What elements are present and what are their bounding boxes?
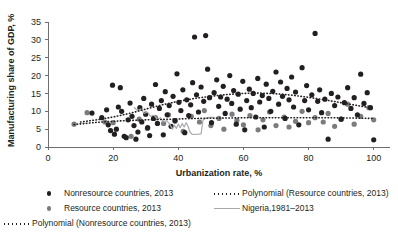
x-tick-group: 020406080100 <box>45 147 381 163</box>
data-point <box>203 33 208 38</box>
data-point <box>234 122 239 127</box>
legend-column-right: Polynomial (Resource countries, 2013) Ni… <box>212 186 398 216</box>
x-tick-label: 80 <box>304 153 314 163</box>
polynomial-resource-line <box>74 118 374 125</box>
y-tick-label: 15 <box>31 89 41 99</box>
x-tick-label: 40 <box>173 153 183 163</box>
data-point <box>335 94 340 99</box>
data-point <box>249 105 254 110</box>
data-point <box>293 89 298 94</box>
data-point <box>284 86 289 91</box>
data-point <box>255 127 260 132</box>
data-point <box>149 102 154 107</box>
data-point <box>329 91 334 96</box>
data-point <box>304 83 309 88</box>
data-point <box>202 108 207 113</box>
legend-marker-dotted-line-icon <box>212 188 242 200</box>
data-point <box>147 133 152 138</box>
data-point <box>110 83 115 88</box>
data-point <box>190 80 195 85</box>
data-point <box>266 96 271 101</box>
data-point <box>312 31 317 36</box>
data-point <box>326 111 331 116</box>
data-point <box>196 109 201 114</box>
legend-item-polynomial-resource: Polynomial (Resource countries, 2013) <box>212 186 398 201</box>
legend-marker-solid-line-icon <box>212 203 242 215</box>
data-point <box>216 104 221 109</box>
x-tick-label: 60 <box>238 153 248 163</box>
data-point <box>165 112 170 117</box>
y-tick-label: 30 <box>31 35 41 45</box>
x-tick-label: 100 <box>366 153 381 163</box>
legend-marker-dot-dark-icon <box>34 188 64 200</box>
data-point <box>194 92 199 97</box>
data-point <box>247 87 252 92</box>
data-point <box>212 90 217 95</box>
data-point <box>296 122 301 127</box>
data-point <box>133 137 138 142</box>
data-point <box>262 124 267 129</box>
data-point <box>286 124 291 129</box>
y-tick-label: 20 <box>31 71 41 81</box>
legend-marker-dot-gray-icon <box>34 203 64 215</box>
data-point <box>231 88 236 93</box>
legend-label: Nonresource countries, 2013 <box>64 189 173 198</box>
data-point <box>255 76 260 81</box>
data-point <box>116 104 121 109</box>
y-tick-label: 5 <box>36 124 41 134</box>
data-point <box>141 96 146 101</box>
y-tick-label: 10 <box>31 106 41 116</box>
data-point <box>153 82 158 87</box>
data-point <box>188 102 193 107</box>
data-point <box>155 121 160 126</box>
legend-label: Polynomial (Nonresource countries, 2013) <box>32 219 191 228</box>
data-point <box>299 109 304 114</box>
data-point <box>119 109 124 114</box>
data-point <box>332 124 337 129</box>
data-point <box>319 110 324 115</box>
data-point <box>306 107 311 112</box>
data-point <box>131 123 136 128</box>
scatter-plot-canvas: 05101520253035 020406080100 Manufacturin… <box>0 0 398 180</box>
data-point <box>326 137 331 142</box>
data-point <box>127 100 132 105</box>
data-point <box>229 112 234 117</box>
data-point <box>161 132 166 137</box>
data-point <box>180 87 185 92</box>
data-point <box>221 127 226 132</box>
data-point <box>227 73 232 78</box>
data-point <box>268 109 273 114</box>
data-point <box>108 128 113 133</box>
data-point <box>223 111 228 116</box>
data-point <box>225 97 230 102</box>
data-point <box>302 98 307 103</box>
data-point <box>135 129 140 134</box>
data-point <box>306 120 311 125</box>
data-point <box>309 92 314 97</box>
chart-legend: Nonresource countries, 2013 Resource cou… <box>0 186 398 242</box>
plot-axes: 05101520253035 020406080100 <box>31 17 390 163</box>
x-tick-label: 0 <box>45 153 50 163</box>
data-point <box>240 79 245 84</box>
data-point <box>163 89 168 94</box>
legend-label: Resource countries, 2013 <box>64 204 161 213</box>
data-point <box>238 107 243 112</box>
data-point <box>361 101 366 106</box>
data-point <box>178 108 183 113</box>
data-point <box>192 34 197 39</box>
y-axis-title: Manufacturing share of GDP, % <box>6 14 16 147</box>
data-point <box>291 104 296 109</box>
data-point <box>84 110 89 115</box>
data-point <box>170 94 175 99</box>
data-point <box>221 84 226 89</box>
data-point <box>106 122 111 127</box>
data-point <box>348 106 353 111</box>
data-point <box>365 90 370 95</box>
data-point <box>299 65 304 70</box>
data-point <box>276 102 281 107</box>
data-point <box>128 134 133 139</box>
data-point <box>264 82 269 87</box>
data-point <box>112 132 117 137</box>
data-point <box>345 85 350 90</box>
legend-item-polynomial-nonresource: Polynomial (Nonresource countries, 2013) <box>2 216 244 231</box>
